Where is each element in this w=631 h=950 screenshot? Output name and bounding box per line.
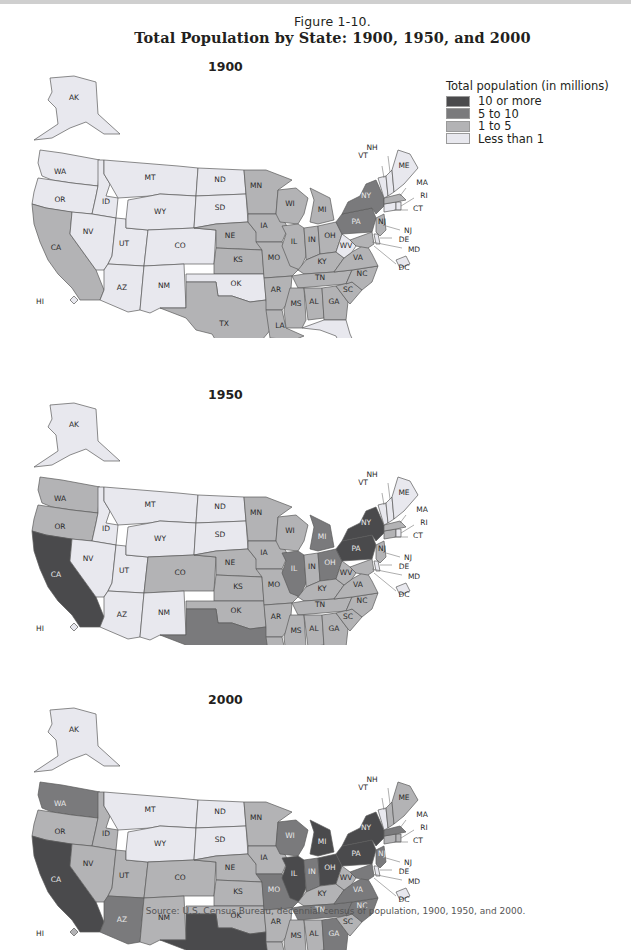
- state-label: AZ: [117, 283, 127, 292]
- state-label: OR: [54, 195, 65, 204]
- map-1950: WAORCAIDNVUTAZMTWYCONMNDSDNEKSOKTXMNIAMO…: [0, 345, 631, 605]
- state-label: ND: [214, 807, 226, 816]
- leader-line: [382, 798, 384, 810]
- state-label: TN: [314, 273, 325, 282]
- map-1900: WAORCAIDNVUTAZMTWYCONMNDSDNEKSOKTXMNIAMO…: [0, 38, 631, 298]
- state-label: DE: [399, 867, 410, 876]
- state-label: AR: [271, 612, 281, 621]
- state-label: MO: [268, 253, 280, 262]
- state-label: MN: [250, 508, 262, 517]
- state-label: NE: [225, 558, 236, 567]
- state-label: MO: [268, 580, 280, 589]
- state-label: RI: [420, 518, 427, 527]
- state-label: SD: [215, 203, 226, 212]
- state-label: CT: [413, 204, 423, 213]
- state-label: NJ: [378, 849, 386, 858]
- state-label: MT: [144, 500, 155, 509]
- state-label: NE: [225, 231, 236, 240]
- state-label: MO: [268, 885, 280, 894]
- state-label: OK: [231, 606, 243, 615]
- state-label: NY: [361, 518, 372, 527]
- leader-line: [400, 515, 406, 523]
- us-state-choropleth: WAORCAIDNVUTAZMTWYCONMNDSDNEKSOKTXMNIAMO…: [0, 345, 631, 645]
- state-label: AK: [69, 93, 80, 102]
- state-label: DC: [398, 895, 409, 904]
- leader-line: [386, 226, 400, 230]
- state-label: VT: [358, 783, 368, 792]
- state-label: MS: [290, 299, 301, 308]
- state-label: CO: [174, 873, 185, 882]
- state-label: DC: [398, 263, 409, 272]
- state-ri: [396, 834, 401, 842]
- state-label: WI: [285, 831, 295, 840]
- state-label: DE: [399, 235, 410, 244]
- state-label: MA: [416, 810, 428, 819]
- state-label: VA: [353, 885, 364, 894]
- state-label: KY: [317, 889, 327, 898]
- leader-line: [374, 573, 396, 591]
- state-label: OH: [324, 863, 336, 872]
- page-top-edge: [0, 0, 631, 4]
- state-label: NJ: [404, 226, 412, 235]
- state-label: CT: [413, 836, 423, 845]
- state-label: NC: [357, 596, 368, 605]
- state-label: CO: [174, 568, 185, 577]
- state-label: NV: [83, 859, 95, 868]
- state-label: OK: [231, 279, 243, 288]
- state-label: RI: [420, 823, 427, 832]
- state-label: PA: [351, 849, 361, 858]
- state-fl: [302, 320, 360, 338]
- leader-line: [400, 820, 406, 828]
- state-label: ME: [398, 793, 409, 802]
- state-label: ID: [102, 829, 110, 838]
- state-hi: [70, 928, 78, 936]
- state-label: AL: [309, 929, 319, 938]
- leader-line: [388, 788, 390, 804]
- state-label: IL: [291, 237, 298, 246]
- state-label: MA: [416, 178, 428, 187]
- state-label: LA: [275, 321, 285, 330]
- state-label: ND: [214, 502, 226, 511]
- state-label: CA: [51, 243, 62, 252]
- state-label: NE: [225, 863, 236, 872]
- state-label: WV: [340, 568, 353, 577]
- state-label: CT: [413, 531, 423, 540]
- state-label: OR: [54, 522, 65, 531]
- state-label: IN: [308, 867, 316, 876]
- state-label: IA: [260, 853, 268, 862]
- state-label: SC: [343, 612, 353, 621]
- state-label: OH: [324, 558, 336, 567]
- state-label: TN: [314, 600, 325, 609]
- leader-line: [382, 166, 384, 178]
- leader-line: [386, 858, 400, 862]
- state-label: VT: [358, 478, 368, 487]
- state-label: PA: [351, 217, 361, 226]
- state-label: NH: [366, 143, 377, 152]
- state-label: GA: [329, 624, 341, 633]
- leader-line: [388, 156, 390, 172]
- state-ak: [34, 403, 120, 467]
- map-year-label: 1900: [208, 59, 243, 74]
- state-label: ND: [214, 175, 226, 184]
- state-label: IL: [291, 564, 298, 573]
- state-label: WY: [154, 534, 166, 543]
- state-label: GA: [329, 929, 341, 938]
- state-label: NY: [361, 823, 372, 832]
- us-state-choropleth: WAORCAIDNVUTAZMTWYCONMNDSDNEKSOKTXMNIAMO…: [0, 650, 631, 950]
- state-label: NM: [158, 608, 170, 617]
- state-me: [392, 477, 418, 519]
- state-label: FL: [338, 337, 347, 338]
- state-label: OR: [54, 827, 65, 836]
- state-label: MI: [318, 532, 327, 541]
- state-label: WY: [154, 207, 166, 216]
- state-label: WA: [54, 494, 67, 503]
- map-year-label: 2000: [208, 692, 243, 707]
- state-label: MS: [290, 626, 301, 635]
- state-label: NV: [83, 227, 95, 236]
- state-label: IN: [308, 235, 316, 244]
- leader-line: [372, 874, 402, 880]
- state-label: ME: [398, 161, 409, 170]
- leader-line: [388, 483, 390, 499]
- state-label: SC: [343, 917, 353, 926]
- map-year-label: 1950: [208, 387, 243, 402]
